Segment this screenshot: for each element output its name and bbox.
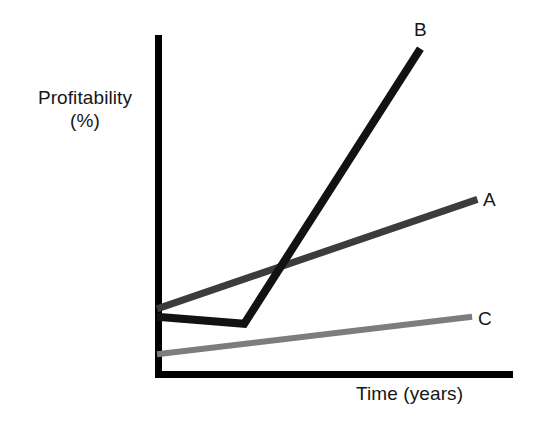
profitability-line-chart: Profitability (%) Time (years) B A C (0, 0, 541, 421)
chart-plot-area (0, 0, 541, 421)
y-axis-title-line1: Profitability (26, 86, 144, 109)
series-label-c: C (478, 309, 492, 328)
y-axis-title-line2: (%) (26, 109, 144, 132)
x-axis-title: Time (years) (356, 382, 463, 405)
series-label-a: A (483, 190, 496, 209)
series-line-b (157, 49, 420, 324)
y-axis-title: Profitability (%) (26, 86, 144, 132)
series-label-b: B (414, 20, 427, 39)
